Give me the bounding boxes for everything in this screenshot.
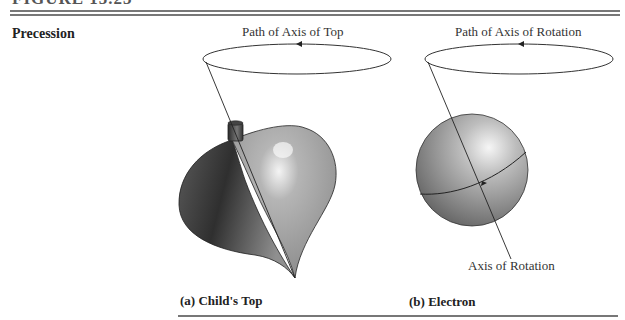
path-label-b: Path of Axis of Rotation — [455, 24, 581, 40]
top-highlight — [273, 142, 293, 158]
precession-path-ellipse-a — [203, 44, 391, 74]
caption-b: (b) Electron — [409, 294, 476, 310]
precession-path-ellipse-b — [425, 44, 613, 74]
axis-of-rotation-label: Axis of Rotation — [468, 258, 555, 274]
panel-a — [179, 41, 391, 278]
path-direction-arrow-b — [518, 41, 524, 47]
panel-b — [416, 41, 613, 259]
caption-a: (a) Child's Top — [180, 293, 262, 309]
bottom-rule — [178, 315, 618, 317]
path-label-a: Path of Axis of Top — [242, 24, 343, 40]
electron-sphere — [416, 114, 528, 226]
path-direction-arrow-a — [296, 41, 302, 47]
top-handle — [228, 123, 243, 141]
